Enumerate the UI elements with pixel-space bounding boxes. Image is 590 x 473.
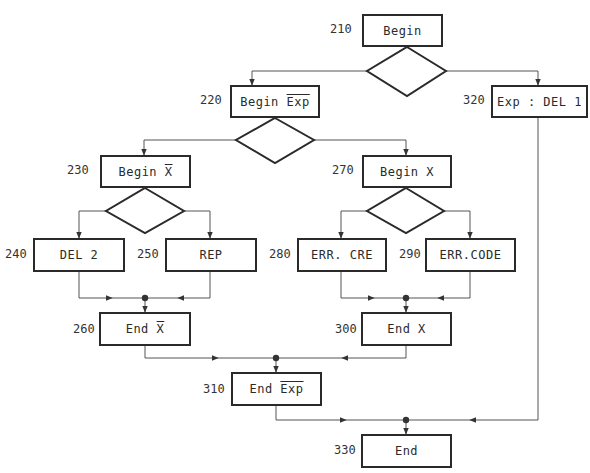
node-number-310: 310 — [203, 382, 225, 396]
decision-diamond-3 — [106, 188, 184, 233]
node-number-280: 280 — [269, 247, 291, 261]
node-del2: DEL 2 — [33, 238, 125, 272]
node-text: Begin — [240, 95, 286, 109]
node-end-not-exp: End Exp — [231, 372, 322, 406]
node-text: Begin — [118, 165, 164, 179]
decision-diamond-1 — [367, 47, 446, 96]
node-text: ERR. CRE — [311, 248, 373, 262]
node-text: Begin X — [380, 165, 434, 179]
node-begin: Begin — [362, 14, 443, 47]
node-text: End X — [387, 322, 426, 336]
merge-dot — [273, 355, 279, 361]
decision-diamond-2 — [236, 118, 314, 163]
node-begin-not-exp: Begin Exp — [230, 85, 320, 118]
node-err-cre: ERR. CRE — [297, 238, 387, 272]
node-text-overlined: X — [157, 322, 165, 336]
node-begin-x: Begin X — [362, 155, 452, 188]
node-text: REP — [199, 248, 222, 262]
node-begin-not-x: Begin X — [100, 155, 191, 188]
node-text: End — [126, 322, 157, 336]
node-number-250: 250 — [137, 247, 159, 261]
node-text: Exp : DEL 1 — [497, 95, 582, 109]
node-number-320: 320 — [463, 93, 485, 107]
node-number-220: 220 — [200, 93, 222, 107]
node-number-240: 240 — [5, 247, 27, 261]
node-text: DEL 2 — [60, 248, 99, 262]
node-text: End — [395, 444, 418, 458]
node-text-overlined: Exp — [280, 382, 303, 396]
node-number-290: 290 — [399, 247, 421, 261]
node-text: Begin — [383, 24, 422, 38]
node-number-270: 270 — [332, 163, 354, 177]
node-text: End — [249, 382, 280, 396]
node-number-210: 210 — [330, 22, 352, 36]
node-end: End — [361, 434, 452, 468]
decision-diamond-4 — [367, 188, 444, 233]
node-text-overlined: Exp — [287, 95, 310, 109]
node-rep: REP — [165, 238, 257, 272]
node-end-x: End X — [361, 312, 452, 346]
merge-dot — [403, 295, 409, 301]
node-number-300: 300 — [335, 322, 357, 336]
merge-dot — [403, 417, 409, 423]
node-exp-del1: Exp : DEL 1 — [491, 85, 588, 118]
node-text: ERR.CODE — [440, 248, 502, 262]
node-err-code: ERR.CODE — [425, 238, 516, 272]
node-number-330: 330 — [334, 443, 356, 457]
node-number-230: 230 — [67, 163, 89, 177]
node-end-not-x: End X — [99, 312, 191, 346]
merge-dot — [142, 295, 148, 301]
node-number-260: 260 — [73, 322, 95, 336]
node-text-overlined: X — [165, 165, 173, 179]
